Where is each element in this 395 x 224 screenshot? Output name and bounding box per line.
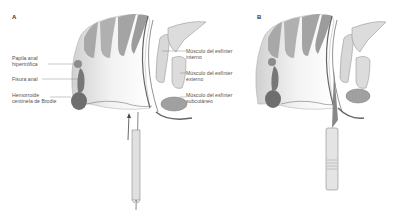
panel-a-illustration xyxy=(42,14,206,210)
panel-b-illustration xyxy=(256,14,386,190)
anatomy-diagram xyxy=(0,0,395,224)
